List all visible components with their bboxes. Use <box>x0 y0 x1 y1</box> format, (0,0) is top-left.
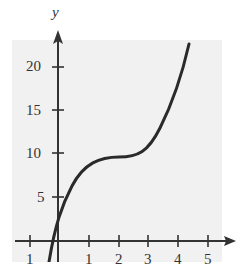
y-axis-label: y <box>52 4 59 21</box>
y-tick-label: 10 <box>26 146 41 161</box>
y-tick-label: 15 <box>26 103 41 118</box>
x-tick-label: 5 <box>204 252 212 267</box>
curve <box>49 44 189 262</box>
x-tick-label: 3 <box>144 252 152 267</box>
y-tick-label: 20 <box>26 59 41 74</box>
y-tick-label: 5 <box>37 190 45 205</box>
x-tick-label: 1 <box>85 252 93 267</box>
x-tick-label: 2 <box>115 252 123 267</box>
x-tick-label: 1 <box>26 252 34 267</box>
x-tick-label: 4 <box>174 252 182 267</box>
